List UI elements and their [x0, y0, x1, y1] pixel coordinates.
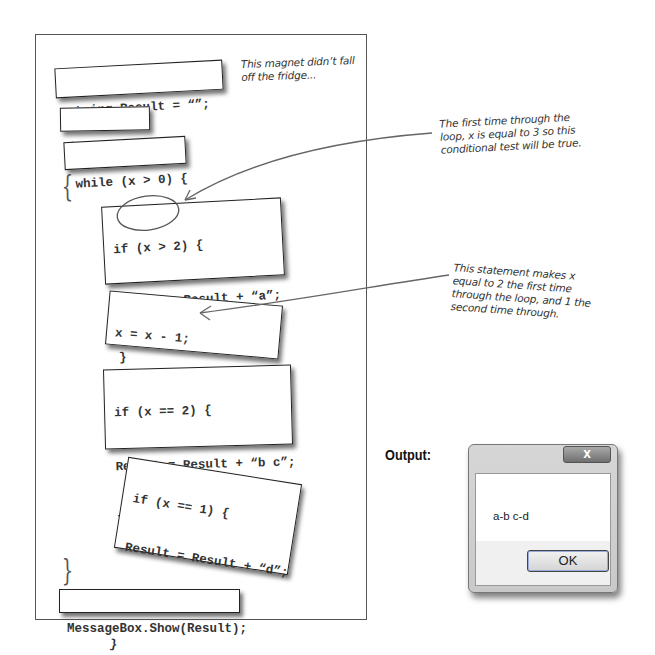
code-line: MessageBox.Show(Result); — [67, 618, 239, 640]
close-brace: } — [62, 552, 73, 587]
magnet-if-x-gt-2[interactable]: if (x > 2) { Result = Result + “a”; } — [101, 197, 285, 284]
magnet-int-x[interactable]: int x = 3; — [60, 106, 150, 132]
code-line: while (x > 0) { — [75, 167, 187, 197]
close-button[interactable]: X — [563, 446, 611, 463]
open-brace: { — [62, 168, 73, 203]
dialog-client-area: a-b c-d OK — [475, 473, 611, 586]
code-line: x = x - 1; — [114, 320, 280, 360]
magnet-messagebox[interactable]: MessageBox.Show(Result); — [59, 589, 240, 613]
fridge-note: This magnet didn’t fall off the fridge..… — [241, 54, 356, 84]
output-label: Output: — [385, 446, 431, 463]
dialog-message: a-b c-d — [493, 510, 529, 522]
close-icon: X — [583, 449, 591, 460]
statement-note: This statement makes x equal to 2 the fi… — [450, 261, 593, 323]
ok-button[interactable]: OK — [527, 550, 609, 572]
code-line: if (x > 2) { — [113, 228, 283, 263]
message-box-dialog: X a-b c-d OK — [468, 444, 618, 593]
code-line: if (x == 1) { — [131, 489, 296, 535]
code-line: if (x == 2) { — [114, 396, 292, 427]
magnet-while-loop[interactable]: while (x > 0) { — [63, 136, 186, 170]
code-line: Result = Result + “d”; — [123, 538, 288, 584]
magnet-if-x-eq-2[interactable]: if (x == 2) { Result = Result + “b c”; } — [103, 365, 293, 450]
first-time-note: The first time through the loop, x is eq… — [439, 110, 582, 156]
